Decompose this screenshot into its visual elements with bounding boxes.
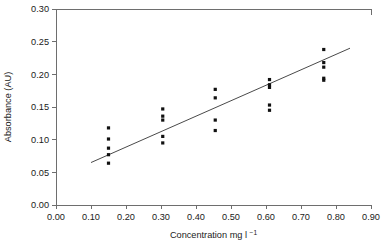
y-tick-label: 0.20 <box>31 70 49 80</box>
data-point <box>268 78 271 81</box>
data-point <box>214 118 217 121</box>
data-point <box>161 141 164 144</box>
data-point <box>214 129 217 132</box>
x-tick-label: 0.20 <box>117 212 135 222</box>
data-point <box>322 66 325 69</box>
x-tick-label: 0.10 <box>82 212 100 222</box>
y-tick-label: 0.10 <box>31 135 49 145</box>
plot-canvas: 0.000.050.100.150.200.250.30 0.000.100.2… <box>0 0 387 248</box>
data-point <box>107 126 110 129</box>
x-tick-label: 0.80 <box>327 212 345 222</box>
data-point <box>161 135 164 138</box>
data-point <box>107 162 110 165</box>
data-point <box>214 96 217 99</box>
y-tick-label: 0.15 <box>31 102 49 112</box>
data-point <box>161 107 164 110</box>
data-point <box>268 83 271 86</box>
y-axis-tick-marks <box>52 9 56 205</box>
data-point <box>268 109 271 112</box>
x-tick-label: 0.90 <box>362 212 380 222</box>
data-point <box>322 77 325 80</box>
data-point <box>107 137 110 140</box>
x-tick-label: 0.00 <box>47 212 65 222</box>
data-point <box>322 61 325 64</box>
y-tick-label: 0.25 <box>31 37 49 47</box>
data-point <box>322 48 325 51</box>
y-tick-label: 0.30 <box>31 4 49 14</box>
data-point <box>268 103 271 106</box>
y-axis-tick-labels: 0.000.050.100.150.200.250.30 <box>31 4 49 210</box>
y-tick-label: 0.05 <box>31 168 49 178</box>
regression-line <box>91 48 350 162</box>
x-tick-label: 0.60 <box>257 212 275 222</box>
data-point <box>161 118 164 121</box>
data-point <box>161 115 164 118</box>
x-tick-label: 0.40 <box>187 212 205 222</box>
data-points-layer <box>107 48 325 165</box>
y-tick-label: 0.00 <box>31 200 49 210</box>
data-point <box>214 88 217 91</box>
data-point <box>107 147 110 150</box>
axis-frame <box>56 9 371 205</box>
x-axis-title: Concentration mg l −1 <box>170 229 258 240</box>
scatter-chart: 0.000.050.100.150.200.250.30 0.000.100.2… <box>0 0 387 248</box>
y-axis-title: Absorbance (AU) <box>3 72 13 142</box>
x-axis-tick-marks <box>56 205 371 209</box>
x-tick-label: 0.70 <box>292 212 310 222</box>
data-point <box>107 153 110 156</box>
x-tick-label: 0.30 <box>152 212 170 222</box>
x-axis-tick-labels: 0.000.100.200.300.400.500.600.700.800.90 <box>47 212 380 222</box>
x-tick-label: 0.50 <box>222 212 240 222</box>
